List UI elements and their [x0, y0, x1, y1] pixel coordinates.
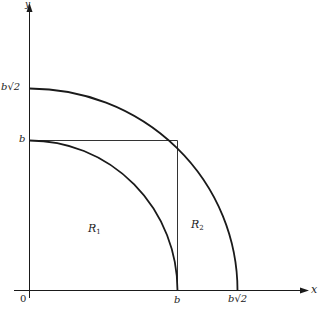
region-r1-subscript: 1: [96, 228, 100, 236]
x-axis-label: x: [311, 284, 317, 295]
region-r2-label: R2: [191, 219, 204, 232]
region-r2-subscript: 2: [199, 224, 203, 232]
y-tick-b: b: [19, 134, 25, 144]
y-tick-b-sqrt2: b√2: [1, 82, 20, 92]
x-axis-arrow-icon: [300, 288, 309, 294]
region-r1-label: R1: [88, 223, 101, 236]
arc-radius-b-sqrt2: [30, 89, 238, 291]
y-axis-label: y: [25, 0, 30, 9]
diagram-canvas: [0, 0, 326, 312]
x-tick-b-sqrt2: b√2: [228, 294, 247, 304]
arc-radius-b: [30, 141, 178, 291]
origin-label: 0: [20, 294, 26, 304]
polar-region-diagram: y x 0 b b√2 b b√2 R1 R2: [0, 0, 326, 312]
x-tick-b: b: [174, 295, 180, 305]
